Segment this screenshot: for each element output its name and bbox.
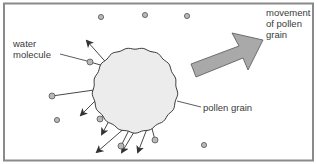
water-molecule-icon <box>54 117 59 122</box>
water-molecule-icon <box>184 13 189 18</box>
water-molecule-icon <box>118 143 124 149</box>
movement-label: movement of pollen grain <box>266 7 310 40</box>
water-molecule-label: water molecule <box>13 38 51 60</box>
brownian-motion-diagram: water molecule pollen grain movement of … <box>0 0 317 164</box>
water-molecule-icon <box>98 14 103 19</box>
water-molecule-icon <box>49 93 55 99</box>
water-molecule-icon <box>97 116 103 122</box>
water-molecule-icon <box>87 59 93 65</box>
water-molecule-icon <box>201 142 206 147</box>
water-molecule-icon <box>152 137 158 143</box>
water-molecule-icon <box>142 12 147 17</box>
pollen-grain-label: pollen grain <box>203 102 252 113</box>
